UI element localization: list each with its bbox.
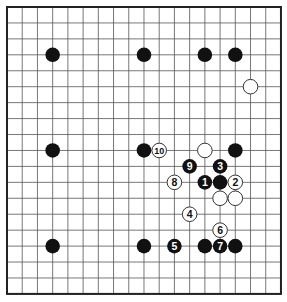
black-stone (228, 48, 243, 63)
white-stone-move-2: 2 (228, 175, 243, 190)
black-stone-move-5: 5 (167, 239, 182, 254)
black-stone-move-1: 1 (198, 175, 213, 190)
white-stone (213, 191, 228, 206)
black-stone (228, 143, 243, 158)
black-stone (45, 143, 60, 158)
black-stone (198, 48, 213, 63)
move-number: 5 (171, 240, 177, 252)
black-stone (198, 239, 213, 254)
go-board: 12345678910 (0, 0, 287, 302)
black-stone (45, 239, 60, 254)
move-number: 1 (202, 176, 208, 188)
black-stone (228, 239, 243, 254)
white-stone (228, 191, 243, 206)
move-number: 2 (232, 176, 238, 188)
white-stone-move-8: 8 (167, 175, 182, 190)
black-stone-move-7: 7 (213, 239, 228, 254)
move-number: 4 (187, 208, 193, 220)
white-stone-move-6: 6 (213, 223, 228, 238)
move-number: 9 (187, 160, 193, 172)
move-number: 6 (217, 224, 223, 236)
move-number: 7 (217, 240, 223, 252)
white-stone (198, 143, 213, 158)
white-stone (243, 79, 258, 94)
black-stone-move-9: 9 (182, 159, 197, 174)
white-stone-move-4: 4 (182, 207, 197, 222)
black-stone (137, 143, 152, 158)
black-stone-move-3: 3 (213, 159, 228, 174)
black-stone (137, 48, 152, 63)
move-number: 8 (171, 176, 177, 188)
black-stone (45, 48, 60, 63)
move-number: 10 (154, 146, 164, 156)
move-number: 3 (217, 160, 223, 172)
black-stone (213, 175, 228, 190)
black-stone (137, 239, 152, 254)
white-stone-move-10: 10 (152, 143, 167, 158)
